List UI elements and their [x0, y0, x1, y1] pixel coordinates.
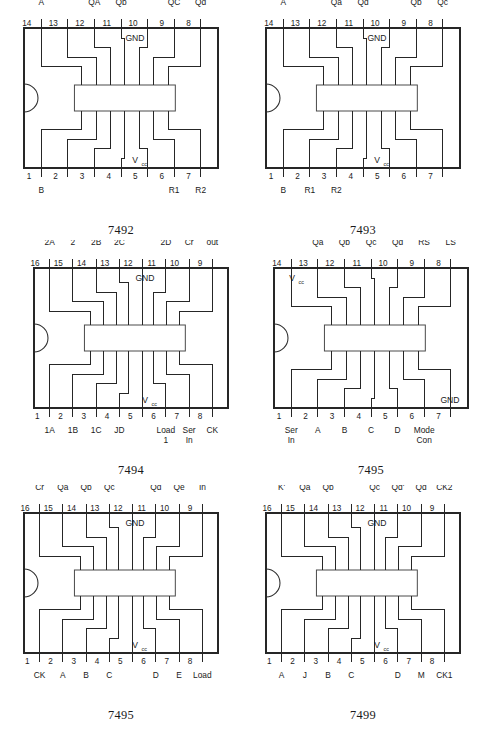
pin-number: 8	[198, 412, 203, 421]
pin-number: 11	[353, 259, 362, 268]
pin-number: 14	[264, 19, 274, 28]
gnd-rail-label: GND	[125, 518, 144, 528]
pin-bottom-6: 6Load1	[151, 351, 175, 445]
pin-top-9: 9CK2	[411, 485, 453, 570]
pin-bottom-2: 2A	[48, 596, 93, 680]
pin-signal-label: Qb	[81, 485, 93, 492]
pin-bottom-6: 6R1	[154, 111, 180, 195]
pin-bottom-5: 5	[360, 596, 375, 666]
pin-signal-label: LS	[446, 240, 457, 247]
pin-bottom-8: 8CK1	[411, 596, 453, 680]
pinout-sheet: 14A1312QA11Qb109QC8Qd1B23456R17R2GNDVcc7…	[0, 0, 485, 740]
pin-bottom-2: 2R1	[295, 111, 338, 195]
pin-bottom-5: 5	[128, 351, 143, 421]
pin-number: 16	[21, 504, 31, 513]
pin-signal-label: 1	[164, 435, 169, 445]
vcc-rail-label: V	[374, 640, 380, 650]
pin-top-11: 11Qd	[345, 0, 369, 85]
pin-signal-label: Qc	[369, 485, 380, 492]
pin-bottom-4: 4C	[95, 596, 119, 680]
pin-bottom-6: 6	[396, 111, 416, 181]
pin-number: 6	[402, 172, 407, 181]
pin-signal-label: Qd	[357, 0, 369, 7]
pin-signal-label: B	[325, 670, 331, 680]
pin-number: 9	[410, 259, 415, 268]
pin-bottom-3: 3R2	[322, 111, 353, 195]
pin-top-13: 13Qc	[90, 485, 118, 570]
pin-number: 9	[188, 504, 193, 513]
pin-number: 3	[82, 412, 87, 421]
pin-signal-label: D	[395, 425, 401, 435]
pin-number: 14	[77, 259, 87, 268]
pin-number: 1	[35, 412, 40, 421]
vcc-rail-label-subscript: cc	[299, 279, 305, 285]
pin-bottom-8: 8Load	[169, 596, 212, 680]
gnd-rail-label: GND	[135, 273, 154, 283]
pin-signal-label: Qb	[115, 0, 127, 7]
pin-number: 11	[345, 19, 354, 28]
pin-signal-label: CK1	[436, 670, 453, 680]
pin-signal-label: Qa	[299, 485, 311, 492]
pin-signal-label: Qd'	[391, 485, 404, 492]
pin-signal-label: out	[207, 240, 219, 247]
pin-signal-label: Load	[193, 670, 212, 680]
pin-number: 13	[90, 504, 100, 513]
pin-number: 12	[75, 19, 85, 28]
pin-number: 2	[48, 657, 53, 666]
pin-signal-label: Ser	[183, 425, 196, 435]
chip-caption: 7493	[242, 223, 484, 238]
chip-caption: 7492	[0, 223, 242, 238]
pin-number: 6	[141, 657, 146, 666]
pin-signal-label: M	[418, 670, 425, 680]
vcc-rail-label: V	[289, 273, 295, 283]
pin-signal-label: R2	[331, 185, 342, 195]
pin-bottom-1: 1A	[267, 596, 323, 680]
pin-bottom-1: 1SerIn	[277, 351, 332, 445]
pin-top-10: 10Qd	[378, 240, 403, 325]
pin-signal-label: Qb	[339, 240, 351, 247]
pin-signal-label: JD	[114, 425, 124, 435]
pin-top-11: 11Qc	[353, 240, 377, 325]
pin-number: 10	[402, 504, 412, 513]
pin-bottom-2: 21B	[58, 351, 103, 435]
chip-caption: 7499	[242, 708, 484, 723]
pin-bottom-1: 1B	[269, 111, 324, 195]
pin-number: 7	[186, 172, 191, 181]
pin-number: 10	[160, 504, 170, 513]
pin-number: 10	[378, 259, 388, 268]
pin-number: 15	[44, 504, 54, 513]
pin-signal-label: 1A	[45, 425, 56, 435]
pin-signal-label: In	[288, 435, 295, 445]
pin-number: 5	[133, 172, 138, 181]
pin-signal-label: E	[176, 670, 182, 680]
vcc-rail-label-subscript: cc	[142, 646, 148, 652]
pin-number: 8	[428, 19, 433, 28]
pin-signal-label: 2D	[161, 240, 172, 247]
pin-number: 1	[267, 657, 272, 666]
pin-number: 15	[286, 504, 296, 513]
pin-top-14: 14Qb	[67, 485, 106, 570]
pin-bottom-4: 4	[348, 111, 366, 181]
pin-bottom-1: 11A	[35, 351, 91, 435]
pin-number: 16	[263, 504, 273, 513]
pin-bottom-3: 3B	[330, 351, 361, 435]
pin-signal-label: R1	[169, 185, 180, 195]
pin-signal-label: A	[38, 0, 44, 7]
vcc-rail-label: V	[142, 395, 148, 405]
pin-signal-label: 2C	[114, 240, 125, 247]
chip-caption: 7495	[0, 708, 242, 723]
pin-number: 13	[299, 259, 309, 268]
pin-bottom-5: 5	[133, 111, 148, 181]
pin-signal-label: RS	[418, 240, 430, 247]
pin-number: 8	[436, 259, 441, 268]
pin-signal-label: B	[38, 185, 44, 195]
pin-signal-label: In	[199, 485, 206, 492]
pin-number: 4	[356, 412, 361, 421]
chip-7494: 16Pr2A15Load214Pr2B13Pr2C1211Pr2D10Cr9ou…	[10, 240, 252, 487]
vcc-rail-label-subscript: cc	[142, 161, 148, 167]
pin-top-10: 10Cr	[166, 240, 193, 325]
pin-signal-label: Qa	[331, 0, 343, 7]
pin-number: 13	[332, 504, 342, 513]
pin-number: 2	[53, 172, 58, 181]
pin-bottom-3: 3B	[314, 596, 348, 680]
